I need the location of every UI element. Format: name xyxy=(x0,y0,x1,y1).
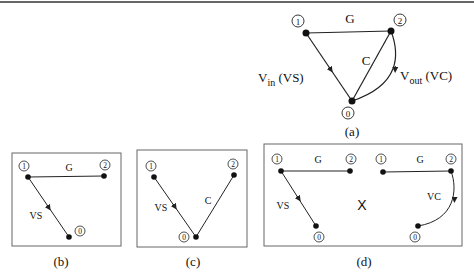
edge-label-g: G xyxy=(345,11,354,26)
edge-label-g: G xyxy=(65,162,72,173)
edge-label-vs: VS xyxy=(277,200,290,211)
node-label-2: 2 xyxy=(103,161,107,170)
node-dot xyxy=(380,169,386,175)
node-label-0: 0 xyxy=(182,233,186,242)
node-label-1: 1 xyxy=(296,17,301,27)
node-dot xyxy=(101,173,107,179)
node-label-0: 0 xyxy=(413,233,417,242)
edge-c xyxy=(352,31,391,101)
node-dot xyxy=(303,30,310,37)
node-label-0: 0 xyxy=(317,233,321,242)
edge-c xyxy=(196,175,234,237)
node-dot xyxy=(278,168,284,174)
panel-b: 1 2 0 G VS (b) xyxy=(12,153,121,269)
node-dot xyxy=(231,172,237,178)
edge-label-g: G xyxy=(314,154,321,165)
panel-d: 1 2 0 G VS X 1 2 0 G VC (d) xyxy=(264,144,462,269)
edge-label-c: C xyxy=(205,195,212,206)
node-label-2: 2 xyxy=(231,160,235,169)
node-label-0: 0 xyxy=(346,109,351,119)
node-label-2: 2 xyxy=(349,155,353,164)
node-label-2: 2 xyxy=(398,16,403,26)
edge-label-vin: Vin (VS) xyxy=(258,70,304,88)
node-dot xyxy=(347,168,353,174)
edge-label-vout: Vout (VC) xyxy=(400,68,452,86)
edge-label-vs: VS xyxy=(155,202,168,213)
node-label-1: 1 xyxy=(275,155,279,164)
node-dot xyxy=(25,174,31,180)
panel-c: 1 2 0 VS C (c) xyxy=(137,150,247,269)
edge-label-c: C xyxy=(362,53,371,68)
edge-g xyxy=(28,176,104,177)
node-dot xyxy=(415,223,421,229)
panel-a: 1 2 0 G C Vin (VS) Vout (VC) (a) xyxy=(258,11,452,139)
node-dot xyxy=(349,98,356,105)
caption-c: (c) xyxy=(186,254,200,269)
node-label-2: 2 xyxy=(449,155,453,164)
node-label-1: 1 xyxy=(379,155,383,164)
node-dot xyxy=(388,28,395,35)
node-label-0: 0 xyxy=(78,227,82,236)
graph-decomposition-figure: 1 2 0 G C Vin (VS) Vout (VC) (a) 1 2 0 G… xyxy=(0,0,474,278)
node-label-1: 1 xyxy=(149,162,153,171)
edge-label-vc: VC xyxy=(427,191,441,202)
node-dot xyxy=(151,174,157,180)
node-label-1: 1 xyxy=(22,162,26,171)
node-dot xyxy=(66,234,72,240)
node-dot xyxy=(193,234,199,240)
caption-b: (b) xyxy=(53,254,68,269)
caption-d: (d) xyxy=(356,254,371,269)
subgraph-right: 1 2 0 G VC xyxy=(376,154,456,242)
edge-label-vs: VS xyxy=(30,210,43,221)
edge-g xyxy=(383,171,451,172)
arrow-icon xyxy=(173,204,175,207)
node-dot xyxy=(313,223,319,229)
edge-g xyxy=(306,31,391,33)
product-operator: X xyxy=(357,197,367,213)
edge-vout xyxy=(352,31,396,101)
node-dot xyxy=(448,168,454,174)
edge-label-g: G xyxy=(416,154,423,165)
subgraph-left: 1 2 0 G VS xyxy=(272,154,356,242)
caption-a: (a) xyxy=(345,124,359,139)
